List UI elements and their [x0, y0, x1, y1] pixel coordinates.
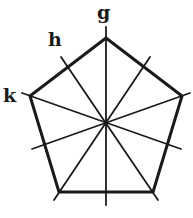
symmetry-axis-h — [61, 57, 158, 200]
pentagon-symmetry-diagram: g h k — [0, 0, 193, 218]
label-g: g — [97, 3, 110, 22]
label-k: k — [3, 86, 16, 105]
symmetry-axis-4 — [32, 93, 190, 149]
symmetry-axis-5 — [54, 57, 150, 200]
label-h: h — [48, 30, 62, 49]
center-point — [104, 121, 108, 125]
symmetry-axis-k — [22, 93, 181, 149]
diagram-svg — [0, 0, 193, 218]
